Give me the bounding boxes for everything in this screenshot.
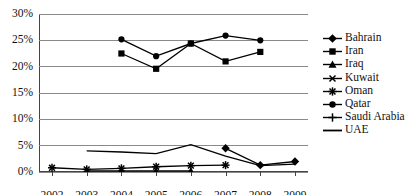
x-tick — [156, 172, 157, 176]
x-tick — [226, 172, 227, 176]
x-tick-label: 2009 — [275, 189, 315, 195]
legend-item-oman[interactable]: Oman — [322, 84, 417, 97]
diamond-icon — [322, 31, 343, 44]
data-point-asterisk — [328, 87, 336, 95]
data-point-circle — [257, 37, 263, 43]
x-icon — [322, 71, 343, 84]
x-tick — [87, 172, 88, 176]
data-point-circle — [118, 36, 124, 42]
x-tick — [191, 172, 192, 176]
square-icon — [322, 44, 343, 57]
data-point-square — [329, 49, 335, 55]
data-point-asterisk — [117, 164, 125, 172]
series-line — [121, 43, 260, 68]
chart-root: 0%5%10%15%20%25%30% 20022003200420052006… — [0, 0, 417, 195]
data-point-asterisk — [222, 161, 230, 169]
data-point-square — [153, 66, 159, 72]
y-tick-label: 20% — [0, 61, 33, 72]
data-point-diamond — [328, 34, 337, 43]
circle-icon — [322, 97, 343, 110]
legend-label: UAE — [343, 123, 369, 136]
x-tick — [295, 172, 296, 176]
data-point-circle — [329, 101, 335, 107]
data-point-square — [118, 50, 124, 56]
data-point-asterisk — [48, 164, 56, 172]
data-point-square — [222, 58, 228, 64]
y-tick-label: 0% — [0, 166, 33, 177]
data-point-square — [257, 49, 263, 55]
y-tick-label: 30% — [0, 8, 33, 19]
y-tick-label: 10% — [0, 113, 33, 124]
series-line — [52, 165, 226, 169]
series-layer — [39, 14, 308, 172]
legend: BahrainIranIraqKuwaitOmanQatarSaudi Arab… — [322, 31, 417, 137]
legend-label: Bahrain — [343, 31, 381, 44]
legend-label: Oman — [343, 84, 373, 97]
y-tick-label: 5% — [0, 140, 33, 151]
x-tick — [260, 172, 261, 176]
legend-label: Saudi Arabia — [343, 110, 405, 123]
data-point-asterisk — [152, 163, 160, 171]
legend-item-bahrain[interactable]: Bahrain — [322, 31, 417, 44]
legend-label: Qatar — [343, 97, 371, 110]
triangle-icon — [322, 57, 343, 70]
legend-item-iran[interactable]: Iran — [322, 44, 417, 57]
data-point-asterisk — [187, 162, 195, 170]
asterisk-icon — [322, 84, 343, 97]
legend-item-saudi-arabia[interactable]: Saudi Arabia — [322, 110, 417, 123]
legend-label: Kuwait — [343, 71, 379, 84]
legend-item-iraq[interactable]: Iraq — [322, 57, 417, 70]
legend-item-uae[interactable]: UAE — [322, 123, 417, 136]
legend-item-qatar[interactable]: Qatar — [322, 97, 417, 110]
y-tick-label: 25% — [0, 34, 33, 45]
x-tick — [52, 172, 53, 176]
series-qatar — [118, 32, 263, 59]
data-point-circle — [222, 32, 228, 38]
plot-area: 0%5%10%15%20%25%30% 20022003200420052006… — [39, 14, 308, 172]
legend-item-kuwait[interactable]: Kuwait — [322, 71, 417, 84]
data-point-diamond — [221, 144, 229, 152]
x-tick — [121, 172, 122, 176]
plus-icon — [322, 110, 343, 123]
data-point-plus — [328, 114, 336, 122]
data-point-circle — [153, 53, 159, 59]
data-point-circle — [188, 40, 194, 46]
y-tick-label: 15% — [0, 87, 33, 98]
legend-label: Iran — [343, 44, 364, 57]
line-icon — [322, 123, 343, 136]
legend-label: Iraq — [343, 57, 364, 70]
